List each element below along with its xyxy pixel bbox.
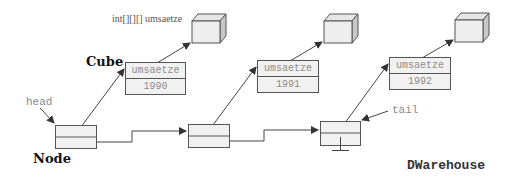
cube-1-year: 1990 — [125, 78, 186, 95]
cube-2-year: 1991 — [257, 76, 319, 93]
node-class-label: Node — [33, 151, 71, 166]
cube-2-field: umsaetze — [257, 60, 319, 77]
array-cube-icon-3 — [455, 13, 489, 42]
cube-1-field: umsaetze — [125, 62, 186, 79]
head-label: head — [26, 96, 52, 108]
cube-class-label: Cube — [86, 54, 123, 69]
dwarehouse-class-label: DWarehouse — [407, 158, 485, 173]
cube-3-field: umsaetze — [389, 57, 451, 74]
node-2 — [189, 125, 230, 148]
cube-3-year: 1992 — [389, 73, 451, 90]
array-label: int[][][] umsaetze — [112, 13, 182, 24]
array-cube-icon-2 — [324, 14, 358, 43]
array-cube-icon-1 — [192, 14, 226, 43]
tail-label: tail — [392, 104, 418, 116]
node-1 — [56, 126, 97, 149]
